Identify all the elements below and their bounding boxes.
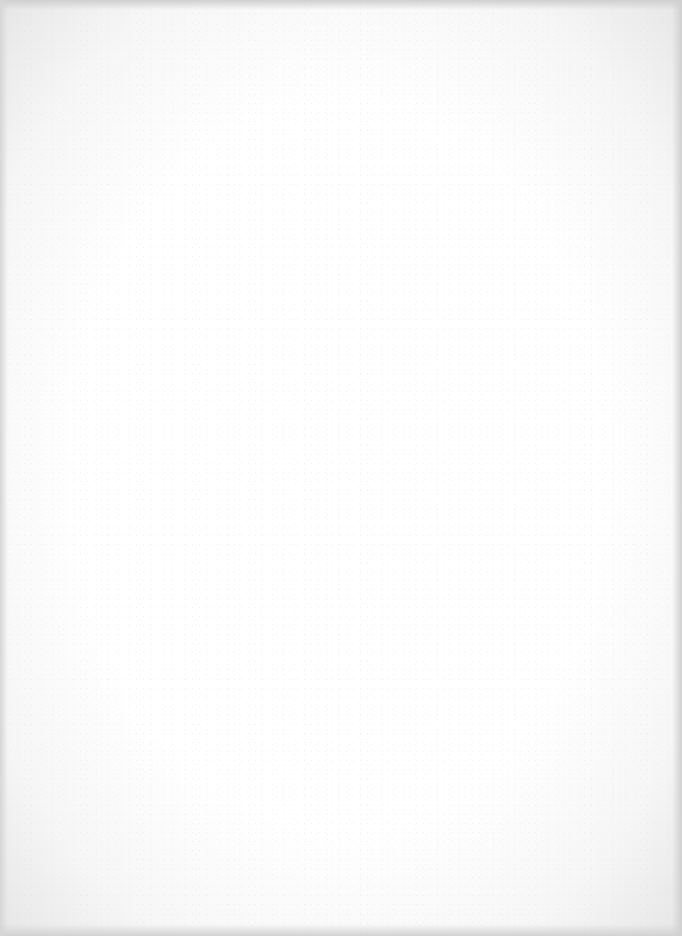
page-edge-right <box>672 0 682 936</box>
page-content <box>40 40 642 896</box>
scanned-page <box>0 0 682 936</box>
page-edge-bottom <box>0 924 682 936</box>
page-edge-left <box>0 0 8 936</box>
page-edge-top <box>0 0 682 10</box>
